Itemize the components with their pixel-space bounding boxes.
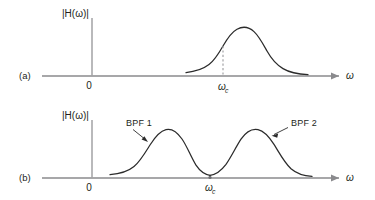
panel-a-response-curve <box>186 27 308 74</box>
frequency-response-figure: (a) |H(ω)| 0 ω c ω (b) <box>0 0 375 200</box>
callout-bpf2: BPF 2 <box>272 118 317 138</box>
panel-b-origin-label: 0 <box>86 182 92 193</box>
panel-a-cutoff-label: ω c <box>218 81 229 94</box>
panel-b: (b) |H(ω)| 0 ω c BPF 1 <box>19 110 354 195</box>
panel-a-cutoff-subscript: c <box>225 87 229 94</box>
panel-a-omega-axis-arrowhead <box>331 73 339 80</box>
panel-b-x-axis-label: ω <box>346 172 354 183</box>
panel-b-cutoff-label: ω c <box>205 182 216 195</box>
callout-bpf1-label: BPF 1 <box>126 118 152 128</box>
panel-a-origin-label: 0 <box>86 80 92 91</box>
callout-bpf2-leader-line <box>274 128 288 135</box>
panel-a-x-axis-label: ω <box>346 70 354 81</box>
panel-b-cutoff-tick-dot <box>208 176 211 179</box>
panel-a-y-axis-label: |H(ω)| <box>62 8 89 19</box>
panel-b-bpf1-curve <box>110 129 210 175</box>
panel-a-label: (a) <box>19 70 31 81</box>
panel-b-label: (b) <box>19 172 31 183</box>
callout-bpf2-label: BPF 2 <box>291 118 317 128</box>
figure-canvas: (a) |H(ω)| 0 ω c ω (b) <box>0 0 375 200</box>
panel-b-y-axis-label: |H(ω)| <box>62 110 89 121</box>
panel-b-bpf2-curve <box>210 129 312 176</box>
panel-a: (a) |H(ω)| 0 ω c ω <box>19 8 354 94</box>
panel-b-cutoff-subscript: c <box>212 188 216 195</box>
callout-bpf1: BPF 1 <box>126 118 152 142</box>
panel-b-omega-axis-arrowhead <box>331 175 339 182</box>
